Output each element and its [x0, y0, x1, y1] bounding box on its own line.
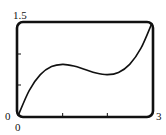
data-line: [18, 23, 152, 116]
y-max-label: 1.5: [13, 10, 27, 21]
x-max-label: 3: [156, 111, 162, 122]
x-min-label: 0: [15, 122, 21, 133]
y-min-label: 0: [5, 111, 11, 122]
axis-ticks: [18, 54, 107, 116]
